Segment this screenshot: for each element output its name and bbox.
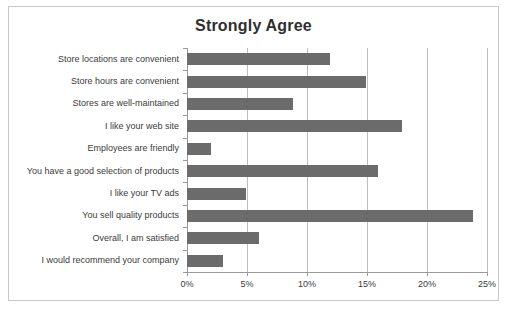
x-axis-tick-label: 0% (180, 279, 193, 289)
bar-row (187, 227, 487, 249)
category-axis-label: I like your TV ads (110, 189, 183, 198)
x-axis-tick (427, 272, 428, 276)
bar-row (187, 182, 487, 204)
y-axis-tick (183, 93, 187, 94)
bar-row (187, 48, 487, 70)
category-label-row: I like your web site (15, 115, 183, 137)
chart-title: Strongly Agree (9, 17, 498, 35)
y-axis-tick (183, 48, 187, 49)
y-axis-tick (183, 182, 187, 183)
category-label-row: Store locations are convenient (15, 48, 183, 70)
category-axis-label: You have a good selection of products (27, 167, 183, 176)
bar (187, 188, 246, 200)
y-axis-tick (183, 115, 187, 116)
category-axis-label: Store locations are convenient (58, 55, 183, 64)
category-label-row: I would recommend your company (15, 250, 183, 272)
category-axis-label: Store hours are convenient (71, 77, 183, 86)
gridline (487, 48, 488, 272)
y-axis-tick (183, 227, 187, 228)
y-axis-tick (183, 250, 187, 251)
bar (187, 120, 402, 132)
y-axis-tick (183, 160, 187, 161)
bar-row (187, 93, 487, 115)
y-axis-tick (183, 138, 187, 139)
plot-area (187, 48, 487, 272)
category-label-row: Overall, I am satisfied (15, 227, 183, 249)
y-axis-tick (183, 70, 187, 71)
category-label-row: You sell quality products (15, 205, 183, 227)
category-label-row: Stores are well-maintained (15, 93, 183, 115)
bar-row (187, 205, 487, 227)
bar-row (187, 250, 487, 272)
category-label-row: Store hours are convenient (15, 70, 183, 92)
x-axis-tick-label: 5% (240, 279, 253, 289)
category-axis-label: I like your web site (105, 122, 183, 131)
x-axis-tick-label: 25% (478, 279, 496, 289)
x-axis-tick-label: 10% (298, 279, 316, 289)
category-axis-label: Employees are friendly (87, 144, 183, 153)
bar (187, 255, 223, 267)
bar (187, 143, 211, 155)
bar-row (187, 160, 487, 182)
bar-row (187, 70, 487, 92)
x-axis-line (187, 272, 488, 273)
bar (187, 98, 293, 110)
category-label-row: You have a good selection of products (15, 160, 183, 182)
x-axis-tick (307, 272, 308, 276)
category-label-row: I like your TV ads (15, 182, 183, 204)
bar (187, 76, 366, 88)
category-axis-labels: Store locations are convenientStore hour… (15, 48, 183, 272)
category-axis-label: Overall, I am satisfied (92, 234, 183, 243)
x-axis-tick (367, 272, 368, 276)
x-axis-tick-label: 15% (358, 279, 376, 289)
bar (187, 210, 473, 222)
x-axis-tick (247, 272, 248, 276)
y-axis-tick (183, 205, 187, 206)
bar-row (187, 138, 487, 160)
category-axis-label: Stores are well-maintained (72, 99, 183, 108)
category-axis-label: You sell quality products (82, 211, 183, 220)
chart-frame: Strongly Agree Store locations are conve… (8, 6, 499, 301)
category-axis-label: I would recommend your company (41, 256, 183, 265)
bar (187, 165, 378, 177)
x-axis-tick (487, 272, 488, 276)
category-label-row: Employees are friendly (15, 138, 183, 160)
x-axis-tick-label: 20% (418, 279, 436, 289)
bar (187, 232, 259, 244)
x-axis-tick (187, 272, 188, 276)
bar (187, 53, 330, 65)
bar-row (187, 115, 487, 137)
y-axis-tick (183, 272, 187, 273)
